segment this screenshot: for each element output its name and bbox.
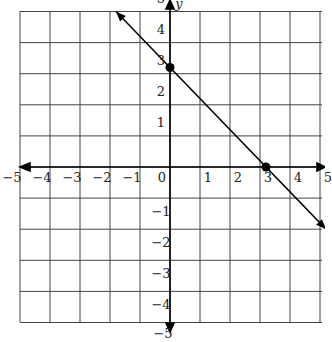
data-point <box>166 63 175 72</box>
y-tick-label: 5 <box>157 0 165 5</box>
y-tick-label: 3 <box>157 52 165 67</box>
x-tick-label: −3 <box>62 170 81 185</box>
x-tick-label: 2 <box>234 170 242 185</box>
x-tick-label: −1 <box>122 170 141 185</box>
y-tick-label: −1 <box>151 204 170 219</box>
y-tick-label: −3 <box>151 266 170 281</box>
y-tick-label: −4 <box>151 297 170 312</box>
y-tick-label: 4 <box>157 21 165 36</box>
x-tick-label: 3 <box>264 170 272 185</box>
x-tick-label: 4 <box>294 170 302 185</box>
x-tick-label: −2 <box>92 170 111 185</box>
x-tick-label: 5 <box>324 170 332 185</box>
y-tick-label: 2 <box>157 83 165 98</box>
y-tick-label: 1 <box>157 114 165 129</box>
y-axis-title: y <box>175 0 182 11</box>
x-tick-label: 1 <box>204 170 212 185</box>
y-axis-up-arrow-icon <box>166 0 174 9</box>
x-tick-label: −5 <box>2 170 21 185</box>
x-tick-label: 0 <box>158 170 166 185</box>
plotted-line <box>116 12 325 230</box>
y-tick-label: −2 <box>151 235 170 250</box>
y-tick-label: −5 <box>153 326 172 341</box>
x-tick-label: −4 <box>32 170 51 185</box>
